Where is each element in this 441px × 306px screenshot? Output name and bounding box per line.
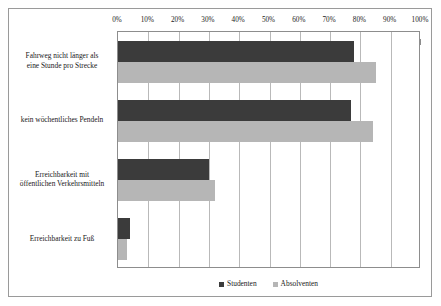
category-label-line: eine Stunde pro Strecke [7, 61, 117, 70]
bar-studenten-2 [118, 159, 209, 180]
legend-swatch-icon [273, 282, 278, 287]
x-tick-label: 80% [353, 15, 366, 25]
category-label-line: kein wöchentliches Pendeln [7, 115, 117, 124]
category-label-line: Erreichbarkeit mit [7, 170, 117, 179]
category-label-line: Erreichbarkeit zu Fuß [7, 234, 117, 243]
y-axis-category-labels: Fahrweg nicht länger alseine Stunde pro … [5, 31, 117, 268]
bar-absolventen-0 [118, 62, 376, 83]
bar-absolventen-1 [118, 121, 373, 142]
category-label-1: kein wöchentliches Pendeln [7, 115, 117, 124]
x-tick-label: 60% [292, 15, 305, 25]
bar-absolventen-3 [118, 239, 127, 260]
chart-frame: 0%10%20%30%40%50%60%70%80%90%100% Fahrwe… [8, 8, 432, 297]
x-tick-label: 10% [141, 15, 154, 25]
x-tick-label: 30% [201, 15, 214, 25]
category-label-0: Fahrweg nicht länger alseine Stunde pro … [7, 51, 117, 70]
x-tick-label: 0% [112, 15, 122, 25]
chart-legend: StudentenAbsolventen [117, 276, 420, 292]
x-axis-tick-labels: 0%10%20%30%40%50%60%70%80%90%100% [1, 15, 441, 29]
x-tick-label: 20% [171, 15, 184, 25]
x-tick-label: 40% [232, 15, 245, 25]
category-label-3: Erreichbarkeit zu Fuß [7, 234, 117, 243]
plot-area [117, 31, 420, 268]
legend-item-absolventen[interactable]: Absolventen [273, 279, 318, 289]
legend-label: Absolventen [281, 279, 318, 289]
category-label-line: öffentlichen Verkehrsmitteln [7, 179, 117, 188]
x-tick-mark [420, 39, 421, 45]
bar-studenten-3 [118, 218, 130, 239]
legend-item-studenten[interactable]: Studenten [219, 279, 257, 289]
category-label-2: Erreichbarkeit mitöffentlichen Verkehrsm… [7, 170, 117, 189]
x-tick-label: 70% [323, 15, 336, 25]
x-tick-label: 90% [383, 15, 396, 25]
gridline [391, 32, 392, 267]
category-label-line: Fahrweg nicht länger als [7, 51, 117, 60]
bar-studenten-0 [118, 41, 354, 62]
bar-absolventen-2 [118, 180, 215, 201]
legend-swatch-icon [219, 282, 224, 287]
bar-studenten-1 [118, 100, 351, 121]
x-tick-label: 100% [412, 15, 429, 25]
legend-label: Studenten [227, 279, 257, 289]
x-tick-label: 50% [262, 15, 275, 25]
